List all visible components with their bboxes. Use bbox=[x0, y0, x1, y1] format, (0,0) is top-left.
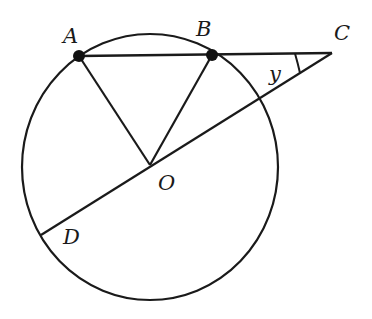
point-a-dot bbox=[73, 50, 85, 62]
label-b: B bbox=[195, 17, 211, 41]
segment-ac bbox=[79, 53, 332, 56]
geometry-diagram: A B C O D y bbox=[0, 0, 372, 319]
label-angle-y: y bbox=[268, 62, 282, 86]
point-b-dot bbox=[206, 49, 218, 61]
label-o: O bbox=[158, 171, 175, 195]
label-d: D bbox=[62, 225, 80, 249]
angle-y-arc bbox=[295, 54, 300, 74]
label-a: A bbox=[61, 24, 78, 48]
segment-ao bbox=[79, 56, 150, 165]
label-c: C bbox=[334, 21, 350, 45]
segment-cd bbox=[41, 53, 332, 235]
